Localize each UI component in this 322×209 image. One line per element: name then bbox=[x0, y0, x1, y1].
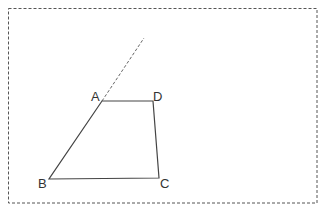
label-a: A bbox=[91, 89, 100, 104]
dashed-frame bbox=[9, 9, 318, 204]
ray-extension-dashed bbox=[102, 38, 144, 101]
geometry-diagram: A D C B bbox=[0, 0, 322, 209]
label-b: B bbox=[38, 176, 47, 191]
label-c: C bbox=[160, 176, 169, 191]
quadrilateral-abcd bbox=[49, 101, 159, 179]
label-d: D bbox=[153, 89, 162, 104]
